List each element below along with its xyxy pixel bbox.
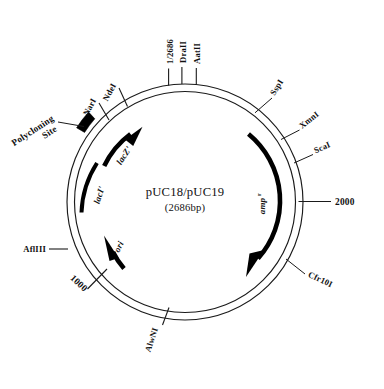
tick-nari xyxy=(99,103,109,120)
ampr-gene-arc xyxy=(249,134,281,259)
plasmid-name: pUC18/pUC19 xyxy=(146,185,224,199)
coord-label-2000: 2000 xyxy=(335,197,355,207)
tick-xmni xyxy=(281,130,300,140)
site-label-draii: DraII xyxy=(178,41,188,63)
plasmid-size: (2686bp) xyxy=(165,202,206,214)
plasmid-map-figure: 1/2686 DraII AatII SspI XmnI ScaI Cfr10I… xyxy=(0,0,384,389)
site-label-aatii: AatII xyxy=(192,42,202,64)
site-label-origin: 1/2686 xyxy=(165,38,175,64)
site-label-cfr10i: Cfr10I xyxy=(307,269,335,289)
gene-label-laci: lacI' xyxy=(92,185,107,205)
site-label-sspi: SspI xyxy=(268,77,286,97)
tick-sspi xyxy=(255,98,272,113)
coord-label-1000: 1000 xyxy=(68,273,89,294)
polycloning-site-label-group: Polycloning Site xyxy=(10,113,62,157)
site-label-xmni: XmnI xyxy=(297,109,321,131)
site-label-aflii: AflIII xyxy=(23,244,46,254)
site-label-scai: ScaI xyxy=(312,139,332,155)
gene-label-ampr-superscript: r xyxy=(255,193,262,196)
site-label-alwni: AlwNI xyxy=(143,326,160,354)
gene-label-ampr-group: amp r xyxy=(255,193,268,214)
gene-label-ampr: amp xyxy=(257,197,267,214)
laci-gene-arc xyxy=(82,163,98,213)
site-label-ndei: NdeI xyxy=(101,81,119,103)
site-label-nari: NarI xyxy=(81,96,99,117)
tick-cfr10i xyxy=(286,259,305,274)
plasmid-diagram: 1/2686 DraII AatII SspI XmnI ScaI Cfr10I… xyxy=(0,0,384,389)
tick-scai xyxy=(294,155,313,164)
ampr-arrowhead xyxy=(246,250,264,277)
